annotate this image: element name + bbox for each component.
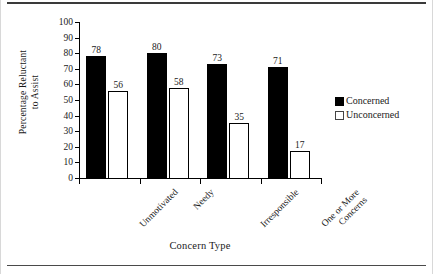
x-axis-tick — [79, 179, 80, 184]
x-axis-tick — [321, 179, 322, 184]
category-label-line: Needy — [191, 187, 216, 212]
figure-container: Percentage Reluctant to Assist 010203040… — [0, 0, 433, 274]
y-axis-tick-label: 80 — [51, 48, 73, 58]
x-axis-title: Concern Type — [79, 240, 321, 251]
bar-unconcerned-2 — [229, 123, 249, 178]
open-square-icon — [335, 111, 344, 120]
plot-area: 0102030405060708090100 7856805873357117 — [79, 22, 321, 178]
y-axis-tick-label: 70 — [51, 64, 73, 74]
x-axis-category-label: Irresponsible — [259, 187, 302, 230]
bar-value-label: 80 — [152, 42, 162, 52]
y-axis-tick — [75, 147, 79, 148]
y-axis-tick — [75, 38, 79, 39]
y-axis-tick — [75, 22, 79, 23]
bar-unconcerned-1 — [169, 88, 189, 178]
x-axis-tick — [200, 179, 201, 184]
bar-concerned-0 — [86, 56, 106, 178]
y-axis-tick — [75, 69, 79, 70]
y-axis-tick — [75, 53, 79, 54]
y-axis-line — [79, 22, 80, 179]
top-rule — [7, 2, 426, 4]
bar-value-label: 35 — [235, 112, 245, 122]
bar-concerned-3 — [268, 67, 288, 178]
bar-unconcerned-3 — [290, 151, 310, 178]
y-axis-tick — [75, 131, 79, 132]
category-label-line: Unmotivated — [138, 187, 181, 230]
x-axis-category-label: Needy — [191, 187, 216, 212]
y-axis-tick-label: 90 — [51, 33, 73, 43]
y-axis-tick — [75, 162, 79, 163]
y-axis-tick-label: 100 — [51, 17, 73, 27]
bottom-rule — [7, 265, 426, 266]
y-axis-tick-label: 20 — [51, 142, 73, 152]
y-axis-title: Percentage Reluctant to Assist — [17, 12, 45, 172]
x-axis-tick — [140, 179, 141, 184]
y-axis-tick-label: 50 — [51, 95, 73, 105]
bar-concerned-1 — [147, 53, 167, 178]
legend-item-label: Unconcerned — [346, 108, 399, 122]
bar-unconcerned-0 — [108, 91, 128, 178]
bar-value-label: 17 — [295, 140, 305, 150]
x-axis-category-label: Unmotivated — [138, 187, 181, 230]
x-axis-category-label: One or MoreConcerns — [319, 187, 369, 237]
y-axis-tick-label: 40 — [51, 111, 73, 121]
y-axis-title-line1: Percentage Reluctant — [17, 12, 29, 172]
y-axis-tick — [75, 116, 79, 117]
y-axis-tick-label: 10 — [51, 157, 73, 167]
legend-item: Unconcerned — [335, 108, 399, 122]
y-axis-tick — [75, 84, 79, 85]
chart-legend: ConcernedUnconcerned — [335, 94, 399, 122]
y-axis-tick-label: 0 — [51, 173, 73, 183]
y-axis-tick-label: 30 — [51, 126, 73, 136]
x-axis-tick — [261, 179, 262, 184]
bar-value-label: 73 — [213, 53, 223, 63]
y-axis-title-line2: to Assist — [29, 12, 41, 172]
filled-square-icon — [335, 97, 344, 106]
bar-value-label: 71 — [273, 56, 283, 66]
y-axis-tick-label: 60 — [51, 79, 73, 89]
y-axis-tick — [75, 100, 79, 101]
bar-value-label: 56 — [114, 80, 124, 90]
legend-item-label: Concerned — [346, 94, 389, 108]
bar-value-label: 58 — [174, 77, 184, 87]
legend-item: Concerned — [335, 94, 399, 108]
category-label-line: Irresponsible — [259, 187, 302, 230]
bar-concerned-2 — [207, 64, 227, 178]
bar-value-label: 78 — [92, 45, 102, 55]
